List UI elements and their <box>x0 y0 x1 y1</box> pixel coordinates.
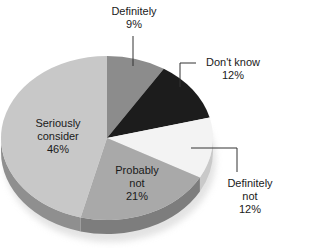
label-seriously-consider: Seriously consider 46% <box>27 117 89 156</box>
label-seriously-consider-value: 46% <box>27 143 89 156</box>
label-definitely-not-line2: not <box>222 190 278 203</box>
label-dont-know: Don't know 12% <box>198 56 268 82</box>
label-definitely: Definitely 9% <box>104 5 164 31</box>
label-dont-know-value: 12% <box>198 69 268 82</box>
label-definitely-name: Definitely <box>104 5 164 18</box>
label-definitely-not-line1: Definitely <box>222 177 278 190</box>
label-probably-not-line2: not <box>107 177 167 190</box>
label-seriously-consider-line1: Seriously <box>27 117 89 130</box>
label-seriously-consider-line2: consider <box>27 130 89 143</box>
label-definitely-not-value: 12% <box>222 203 278 216</box>
label-probably-not-value: 21% <box>107 190 167 203</box>
label-definitely-value: 9% <box>104 18 164 31</box>
label-probably-not-line1: Probably <box>107 164 167 177</box>
label-definitely-not: Definitely not 12% <box>222 177 278 216</box>
label-dont-know-name: Don't know <box>198 56 268 69</box>
label-probably-not: Probably not 21% <box>107 164 167 203</box>
